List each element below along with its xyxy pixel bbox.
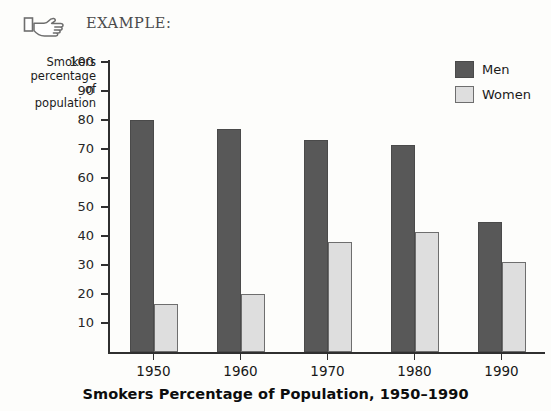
bar-men-1990 bbox=[478, 222, 502, 353]
x-tick-1980 bbox=[414, 353, 416, 360]
y-tick-100: 100 bbox=[101, 61, 109, 63]
x-tick-1990 bbox=[501, 353, 503, 360]
chart-legend: Men Women bbox=[455, 58, 531, 108]
bar-chart: Smokers percentage of population 1009080… bbox=[0, 0, 551, 411]
y-tick-label-40: 40 bbox=[77, 228, 94, 243]
bar-women-1950 bbox=[154, 304, 178, 352]
bar-men-1970 bbox=[304, 140, 328, 352]
y-tick-40: 40 bbox=[101, 235, 109, 237]
y-tick-70: 70 bbox=[101, 148, 109, 150]
legend-item-women: Women bbox=[455, 83, 531, 105]
legend-swatch-men bbox=[455, 61, 474, 78]
x-tick-1950 bbox=[153, 353, 155, 360]
x-tick-label-1990: 1990 bbox=[484, 363, 518, 379]
y-tick-10: 10 bbox=[101, 322, 109, 324]
y-tick-90: 90 bbox=[101, 90, 109, 92]
chart-title: Smokers Percentage of Population, 1950–1… bbox=[0, 386, 551, 402]
x-tick-label-1950: 1950 bbox=[136, 363, 170, 379]
bar-men-1960 bbox=[217, 129, 241, 352]
y-axis-title-line-3: population bbox=[18, 97, 96, 111]
x-tick-1970 bbox=[327, 353, 329, 360]
y-tick-80: 80 bbox=[101, 119, 109, 121]
x-tick-label-1980: 1980 bbox=[397, 363, 431, 379]
y-tick-label-90: 90 bbox=[77, 83, 94, 98]
x-tick-label-1970: 1970 bbox=[310, 363, 344, 379]
y-tick-label-50: 50 bbox=[77, 199, 94, 214]
x-tick-1960 bbox=[240, 353, 242, 360]
y-tick-20: 20 bbox=[101, 293, 109, 295]
bar-women-1960 bbox=[241, 294, 265, 352]
bar-women-1970 bbox=[328, 242, 352, 352]
y-tick-label-80: 80 bbox=[77, 112, 94, 127]
bar-women-1980 bbox=[415, 232, 439, 352]
y-tick-label-30: 30 bbox=[77, 257, 94, 272]
legend-label-men: Men bbox=[482, 62, 509, 77]
y-tick-label-70: 70 bbox=[77, 141, 94, 156]
y-tick-label-100: 100 bbox=[69, 54, 94, 69]
y-tick-30: 30 bbox=[101, 264, 109, 266]
legend-item-men: Men bbox=[455, 58, 531, 80]
legend-label-women: Women bbox=[482, 87, 531, 102]
bar-women-1990 bbox=[502, 262, 526, 352]
bar-men-1980 bbox=[391, 145, 415, 352]
y-tick-label-60: 60 bbox=[77, 170, 94, 185]
x-tick-label-1960: 1960 bbox=[223, 363, 257, 379]
y-tick-50: 50 bbox=[101, 206, 109, 208]
y-tick-60: 60 bbox=[101, 177, 109, 179]
y-tick-label-20: 20 bbox=[77, 286, 94, 301]
y-tick-label-10: 10 bbox=[77, 315, 94, 330]
bar-men-1950 bbox=[130, 120, 154, 352]
legend-swatch-women bbox=[455, 86, 474, 103]
